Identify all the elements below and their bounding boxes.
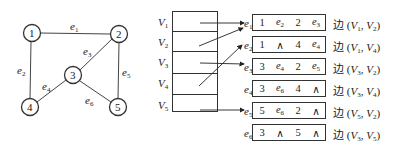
cell-jlink: e4 bbox=[310, 38, 322, 51]
cell-jlink: ∧ bbox=[310, 105, 322, 117]
vertex-table-row bbox=[173, 52, 217, 74]
vertex-table-row bbox=[173, 32, 217, 52]
vertex-table-label-v3: V3 bbox=[158, 56, 168, 72]
vertex-table bbox=[172, 11, 218, 112]
graph-edge-label-e2: e2 bbox=[17, 64, 25, 80]
cell-jvex: 4 bbox=[292, 39, 304, 50]
cell-ilink: ∧ bbox=[274, 39, 286, 51]
graph-edge-label-e3: e3 bbox=[83, 45, 91, 61]
vertex-label-1: 1 bbox=[29, 27, 35, 39]
cell-jlink: ∧ bbox=[310, 127, 322, 139]
cell-ilink: e4 bbox=[274, 60, 286, 73]
edge-desc-e1: 边 (V1, V2) bbox=[333, 16, 380, 33]
edge-desc-e5: 边 (V5, V2) bbox=[333, 104, 380, 121]
cell-jvex: 2 bbox=[292, 61, 304, 72]
edge-node-e4: 3 e6 4 ∧ bbox=[252, 80, 326, 97]
vertex-table-label-v5: V5 bbox=[158, 99, 168, 115]
cell-ilink: ∧ bbox=[274, 127, 286, 139]
edge-node-e5: 5 e6 2 ∧ bbox=[252, 102, 326, 119]
cell-ivex: 5 bbox=[256, 105, 268, 116]
cell-jlink: ∧ bbox=[310, 83, 322, 95]
graph-edge-label-e1: e1 bbox=[70, 20, 78, 36]
cell-ivex: 1 bbox=[256, 39, 268, 50]
cell-ilink: e2 bbox=[274, 16, 286, 29]
vertex-table-row bbox=[173, 95, 217, 115]
vertex-label-5: 5 bbox=[115, 101, 121, 113]
cell-jvex: 2 bbox=[292, 17, 304, 28]
edge-node-e3: 3 e4 2 e5 bbox=[252, 58, 326, 75]
vertex-table-label-v1: V1 bbox=[158, 16, 168, 32]
edge-node-e6: 3 ∧ 5 ∧ bbox=[252, 124, 326, 141]
edge-node-e2: 1 ∧ 4 e4 bbox=[252, 36, 326, 53]
vertex-label-3: 3 bbox=[70, 69, 76, 81]
cell-jvex: 4 bbox=[292, 83, 304, 94]
edge-desc-e3: 边 (V3, V2) bbox=[333, 60, 380, 77]
edge-desc-e4: 边 (V3, V4) bbox=[333, 82, 380, 99]
vertex-table-row bbox=[173, 12, 217, 32]
vertex-table-row bbox=[173, 74, 217, 95]
graph-edge-label-e5: e5 bbox=[122, 66, 130, 82]
graph-edge-label-e4: e4 bbox=[42, 80, 50, 96]
cell-jlink: e3 bbox=[310, 16, 322, 29]
cell-ivex: 3 bbox=[256, 83, 268, 94]
cell-ivex: 1 bbox=[256, 17, 268, 28]
graph-edge-e5 bbox=[118, 42, 119, 99]
vertex-label-4: 4 bbox=[27, 101, 33, 113]
graph-edge-e2 bbox=[30, 41, 31, 99]
edge-desc-e2: 边 (V1, V4) bbox=[333, 38, 380, 55]
vertex-table-label-v4: V4 bbox=[158, 77, 168, 93]
cell-ilink: e6 bbox=[274, 104, 286, 117]
cell-jvex: 2 bbox=[292, 105, 304, 116]
edge-desc-e6: 边 (V3, V5) bbox=[333, 126, 380, 143]
cell-ivex: 3 bbox=[256, 61, 268, 72]
vertex-table-label-v2: V2 bbox=[158, 36, 168, 52]
cell-jvex: 5 bbox=[292, 127, 304, 138]
edge-node-e1: 1 e2 2 e3 bbox=[252, 14, 326, 31]
cell-jlink: e5 bbox=[310, 60, 322, 73]
graph-edge-label-e6: e6 bbox=[85, 94, 93, 110]
cell-ivex: 3 bbox=[256, 127, 268, 138]
vertex-label-2: 2 bbox=[116, 28, 122, 40]
cell-ilink: e6 bbox=[274, 82, 286, 95]
